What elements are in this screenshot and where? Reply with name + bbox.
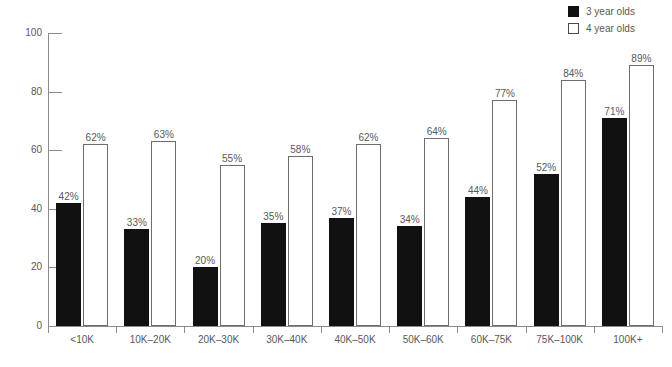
- bar-value-label: 44%: [468, 185, 488, 196]
- bar-4-year-olds: 55%: [220, 165, 245, 326]
- bar-4-year-olds: 62%: [356, 144, 381, 326]
- x-axis-category-label: 60K–75K: [471, 334, 512, 345]
- y-axis-tick: 80: [48, 92, 62, 93]
- bar-value-label: 52%: [536, 162, 556, 173]
- legend-swatch-hollow: [568, 23, 579, 34]
- y-axis-tick-label: 0: [36, 320, 42, 331]
- y-axis-tick: 0: [48, 326, 62, 327]
- x-axis-tick: [253, 326, 254, 333]
- x-axis-tick: [389, 326, 390, 333]
- x-axis-tick: [184, 326, 185, 333]
- x-axis-category-label: 30K–40K: [266, 334, 307, 345]
- x-axis-tick: [48, 326, 49, 333]
- bar-value-label: 42%: [59, 191, 79, 202]
- bar-3-year-olds: 33%: [124, 229, 149, 326]
- bar-3-year-olds: 37%: [329, 218, 354, 326]
- x-axis-category-label: 40K–50K: [334, 334, 375, 345]
- y-axis-tick-label: 80: [31, 86, 42, 97]
- x-axis-category-label: <10K: [70, 334, 94, 345]
- bar-value-label: 33%: [127, 217, 147, 228]
- bar-value-label: 71%: [604, 106, 624, 117]
- bar-3-year-olds: 71%: [602, 118, 627, 326]
- bar-3-year-olds: 20%: [193, 267, 218, 326]
- plot-area: 020406080100 42%62%33%63%20%55%35%58%37%…: [48, 33, 662, 327]
- x-axis-tick: [321, 326, 322, 333]
- bar-value-label: 77%: [495, 88, 515, 99]
- bar-4-year-olds: 89%: [629, 65, 654, 326]
- x-axis-tick: [116, 326, 117, 333]
- x-axis-category-label: 10K–20K: [130, 334, 171, 345]
- bar-4-year-olds: 62%: [83, 144, 108, 326]
- y-axis-tick-label: 20: [31, 261, 42, 272]
- x-axis-tick: [594, 326, 595, 333]
- bar-value-label: 62%: [358, 132, 378, 143]
- bar-value-label: 58%: [290, 144, 310, 155]
- bar-value-label: 34%: [400, 214, 420, 225]
- bar-3-year-olds: 35%: [261, 223, 286, 326]
- x-axis-tick: [457, 326, 458, 333]
- x-axis-category-label: 100K+: [613, 334, 642, 345]
- x-axis-line: [48, 326, 662, 327]
- bar-value-label: 62%: [86, 132, 106, 143]
- bar-4-year-olds: 63%: [151, 141, 176, 326]
- legend-item-3-year-olds: 3 year olds: [568, 4, 672, 18]
- chart-page: 3 year olds 4 year olds 020406080100 42%…: [0, 0, 672, 367]
- bar-4-year-olds: 77%: [492, 100, 517, 326]
- bar-4-year-olds: 84%: [561, 80, 586, 326]
- x-axis-category-label: 75K–100K: [536, 334, 583, 345]
- bar-4-year-olds: 64%: [424, 138, 449, 326]
- bar-4-year-olds: 58%: [288, 156, 313, 326]
- y-axis-line: [48, 33, 49, 327]
- x-axis-tick: [662, 326, 663, 333]
- y-axis-tick: 100: [48, 33, 62, 34]
- y-axis-tick: 60: [48, 150, 62, 151]
- bar-3-year-olds: 52%: [534, 174, 559, 326]
- x-axis-tick: [526, 326, 527, 333]
- legend-swatch-filled: [568, 6, 579, 17]
- y-axis-tick-label: 60: [31, 144, 42, 155]
- bar-3-year-olds: 42%: [56, 203, 81, 326]
- bar-value-label: 63%: [154, 129, 174, 140]
- footer-cutoff-text: [0, 356, 672, 367]
- bar-value-label: 20%: [195, 255, 215, 266]
- bar-value-label: 89%: [631, 53, 651, 64]
- y-axis-tick-label: 40: [31, 203, 42, 214]
- bar-value-label: 35%: [263, 211, 283, 222]
- bar-3-year-olds: 34%: [397, 226, 422, 326]
- bar-3-year-olds: 44%: [465, 197, 490, 326]
- x-axis-category-label: 20K–30K: [198, 334, 239, 345]
- bar-value-label: 37%: [331, 206, 351, 217]
- bar-value-label: 84%: [563, 68, 583, 79]
- legend-label-4-year-olds: 4 year olds: [586, 23, 635, 34]
- legend-label-3-year-olds: 3 year olds: [586, 6, 635, 17]
- y-axis-tick-label: 100: [25, 27, 42, 38]
- bar-value-label: 64%: [427, 126, 447, 137]
- bar-value-label: 55%: [222, 153, 242, 164]
- x-axis-category-label: 50K–60K: [403, 334, 444, 345]
